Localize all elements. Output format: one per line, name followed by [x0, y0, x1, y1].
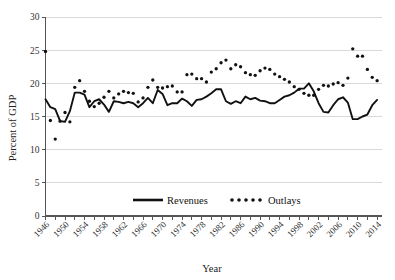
outlays-point [224, 58, 227, 61]
outlays-point [283, 78, 286, 81]
outlays-point [78, 79, 81, 82]
outlays-point [361, 54, 364, 57]
x-tick-label-1958: 1958 [90, 219, 110, 239]
plot-series-area [44, 47, 379, 141]
x-tick-label-2006: 2006 [324, 219, 344, 239]
outlays-point [73, 86, 76, 89]
x-tick-label-1974: 1974 [168, 219, 188, 239]
outlays-point [219, 61, 222, 64]
outlays-point [102, 96, 105, 99]
outlays-point [244, 71, 247, 74]
x-tick-label-1966: 1966 [129, 219, 149, 239]
outlays-point [146, 86, 149, 89]
outlays-point [156, 86, 159, 89]
y-axis-tick-labels: 051015202530 [30, 12, 40, 221]
x-tick-label-2010: 2010 [344, 219, 364, 239]
outlays-point [137, 100, 140, 103]
outlays-point [54, 137, 57, 140]
revenues-outlays-line-chart: 051015202530 194619501954195819621966197… [0, 0, 395, 280]
outlays-point [366, 68, 369, 71]
outlays-point [317, 88, 320, 91]
chart-container: 051015202530 194619501954195819621966197… [0, 0, 395, 280]
outlays-point [332, 82, 335, 85]
outlays-point [112, 96, 115, 99]
outlays-point [356, 54, 359, 57]
x-tick-label-2014: 2014 [363, 219, 383, 239]
outlays-point [268, 68, 271, 71]
y-tick-label-0: 0 [35, 211, 40, 221]
outlays-point [297, 88, 300, 91]
outlays-point [341, 84, 344, 87]
x-tick-label-1994: 1994 [266, 219, 286, 239]
y-tick-label-20: 20 [30, 79, 40, 89]
outlays-point [83, 90, 86, 93]
outlays-point [312, 94, 315, 97]
y-tick-label-15: 15 [30, 112, 40, 122]
y-tick-label-10: 10 [30, 145, 40, 155]
legend-label-outlays: Outlays [268, 195, 301, 206]
legend-dot [244, 198, 248, 202]
x-tick-label-1998: 1998 [285, 219, 305, 239]
outlays-point [302, 92, 305, 95]
outlays-point [229, 67, 232, 70]
outlays-point [166, 85, 169, 88]
outlays-point [346, 76, 349, 79]
outlays-point [122, 90, 125, 93]
outlays-point [293, 85, 296, 88]
x-tick-label-1978: 1978 [188, 219, 208, 239]
outlays-point [127, 91, 130, 94]
outlays-point [176, 90, 179, 93]
legend-label-revenues: Revenues [167, 195, 208, 206]
outlays-point [258, 69, 261, 72]
outlays-point [371, 76, 374, 79]
outlays-point [273, 72, 276, 75]
outlays-point [58, 119, 61, 122]
outlays-point [97, 102, 100, 105]
outlays-point [117, 92, 120, 95]
outlays-point [336, 81, 339, 84]
outlays-point [44, 50, 47, 53]
y-tick-label-30: 30 [30, 12, 40, 22]
outlays-point [151, 78, 154, 81]
chart-legend: RevenuesOutlays [133, 195, 301, 206]
outlays-point [278, 75, 281, 78]
outlays-point [351, 47, 354, 50]
outlays-point [88, 100, 91, 103]
outlays-point [195, 77, 198, 80]
x-tick-label-1946: 1946 [32, 219, 52, 239]
x-tick-label-1954: 1954 [71, 219, 91, 239]
outlays-point [263, 66, 266, 69]
outlays-point [180, 90, 183, 93]
outlays-point [161, 86, 164, 89]
outlays-point [249, 73, 252, 76]
outlays-point [93, 105, 96, 108]
outlays-point [190, 72, 193, 75]
outlays-point [107, 90, 110, 93]
legend-dot [251, 198, 255, 202]
outlays-point [288, 80, 291, 83]
y-tick-label-25: 25 [30, 46, 40, 56]
outlays-point [205, 80, 208, 83]
y-tick-label-5: 5 [35, 178, 40, 188]
legend-dot [230, 198, 234, 202]
legend-dot [237, 198, 241, 202]
outlays-point [239, 65, 242, 68]
outlays-point [132, 92, 135, 95]
outlays-point [322, 84, 325, 87]
outlays-point [210, 70, 213, 73]
outlays-point [49, 119, 52, 122]
outlays-point [63, 111, 66, 114]
outlays-point [234, 63, 237, 66]
x-tick-label-1982: 1982 [207, 219, 227, 239]
x-axis-tick-labels: 1946195019541958196219661970197419781982… [32, 219, 384, 239]
x-axis-title: Year [202, 263, 222, 274]
legend-marker-outlays [230, 198, 262, 202]
outlays-point [215, 67, 218, 70]
outlays-point [254, 74, 257, 77]
y-axis-title: Percent of GDP [7, 95, 18, 162]
outlays-point [307, 94, 310, 97]
x-tick-label-1962: 1962 [110, 219, 130, 239]
outlays-point [200, 77, 203, 80]
outlays-point [68, 120, 71, 123]
outlays-point [375, 79, 378, 82]
